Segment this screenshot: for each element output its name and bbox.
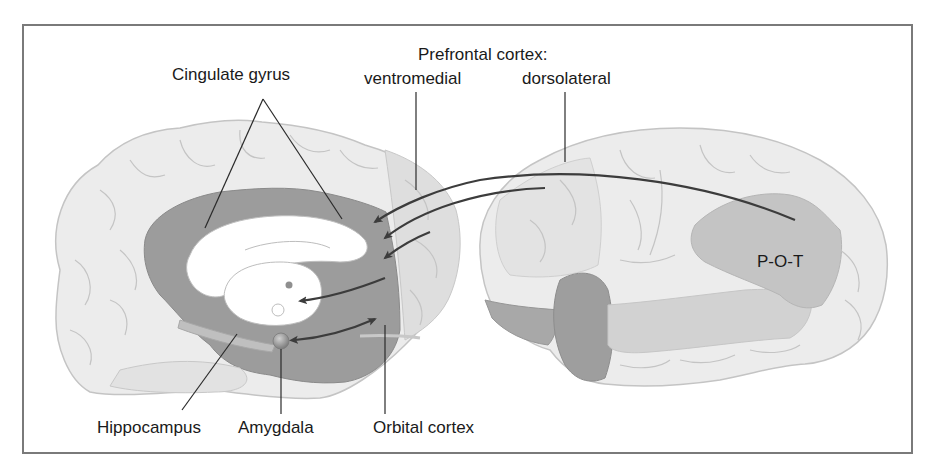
label-prefrontal-cortex: Prefrontal cortex:: [418, 46, 547, 63]
medial-brain: [56, 120, 460, 398]
label-ventromedial: ventromedial: [364, 70, 461, 87]
label-amygdala: Amygdala: [238, 419, 314, 436]
label-hippocampus: Hippocampus: [97, 419, 201, 436]
amygdala-region: [273, 333, 289, 349]
label-pot: P-O-T: [757, 253, 803, 270]
label-cingulate-gyrus: Cingulate gyrus: [172, 66, 290, 83]
lateral-brain: [480, 128, 887, 386]
diencephalon: [224, 262, 321, 325]
label-dorsolateral: dorsolateral: [522, 70, 611, 87]
brain-diagram: [0, 0, 926, 468]
label-orbital-cortex: Orbital cortex: [373, 419, 474, 436]
